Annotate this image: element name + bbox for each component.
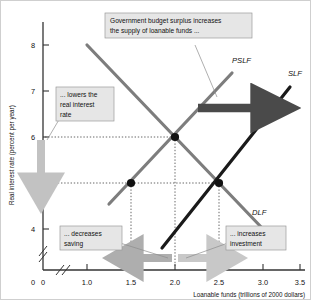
investment-callout-line-1: ... increases [230,230,266,237]
y-tick-label-0: 0 [31,278,35,287]
point-new-equilibrium [215,179,223,187]
supply-shift-callout: Government budget surplus increases the … [105,13,252,38]
y-tick-label-4: 4 [31,225,35,234]
point-original-equilibrium [171,133,179,141]
y-tick-label-6: 6 [31,133,35,142]
interest-rate-callout-line-2: real interest [60,101,95,108]
loanable-funds-market-figure: 8 7 6 5 4 0 0 1.0 1.5 2.0 2.5 3.0 3.5 [0,0,311,300]
y-tick-label-7: 7 [31,87,35,96]
x-tick-label-0: 0 [41,278,45,287]
supply-shift-callout-line-2: the supply of loanable funds ... [110,27,200,35]
curve-label-dlf: DLF [252,208,267,217]
x-tick-label-2-5: 2.5 [214,278,224,287]
investment-callout-line-2: investment [230,240,262,247]
interest-rate-callout-line-3: rate [60,111,72,118]
point-saving [127,179,135,187]
y-tick-label-8: 8 [31,41,35,50]
interest-rate-callout: ... lowers the real interest rate [56,87,114,121]
saving-callout-line-2: saving [64,240,83,248]
y-axis-title: Real interest rate (percent per year) [8,105,16,205]
x-tick-label-1-5: 1.5 [126,278,136,287]
x-tick-label-1-0: 1.0 [82,278,92,287]
x-tick-label-2-0: 2.0 [170,278,180,287]
chart-canvas: 8 7 6 5 4 0 0 1.0 1.5 2.0 2.5 3.0 3.5 [0,0,311,300]
curve-label-slf: SLF [288,69,302,78]
investment-callout: ... increases investment [226,226,286,250]
saving-callout: ... decreases saving [60,226,122,250]
y-tick-label-5: 5 [31,179,35,188]
x-tick-label-3-0: 3.0 [258,278,268,287]
curve-label-pslf: PSLF [232,56,251,65]
interest-rate-callout-line-1: ... lowers the [60,91,98,98]
x-axis-title: Loanable funds (trillions of 2000 dollar… [193,291,305,299]
supply-shift-callout-line-1: Government budget surplus increases [110,17,222,25]
saving-callout-line-1: ... decreases [64,230,102,237]
x-tick-label-3-5: 3.5 [295,278,305,287]
